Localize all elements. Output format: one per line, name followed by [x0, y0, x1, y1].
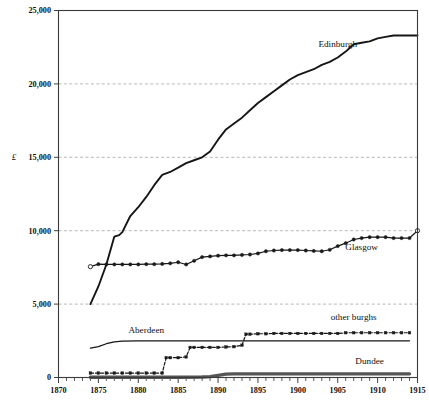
marker-glasgow-31 [336, 244, 339, 247]
marker-other-burghs-17 [209, 346, 212, 349]
marker-glasgow-17 [224, 254, 227, 257]
marker-other-burghs-6 [137, 372, 140, 375]
x-tick-label-1905: 1905 [330, 386, 346, 395]
chart-background [0, 0, 429, 411]
marker-glasgow-27 [304, 249, 307, 252]
annotation-other-burghs: other burghs [331, 312, 377, 322]
marker-other-burghs-27 [281, 332, 284, 335]
marker-glasgow-9 [161, 262, 164, 265]
marker-glasgow-8 [153, 263, 156, 266]
marker-glasgow-24 [280, 248, 283, 251]
marker-glasgow-14 [200, 255, 203, 258]
x-tick-label-1880: 1880 [130, 386, 146, 395]
marker-glasgow-21 [256, 252, 259, 255]
marker-glasgow-30 [328, 248, 331, 251]
marker-glasgow-26 [296, 248, 299, 251]
x-tick-label-1910: 1910 [369, 386, 385, 395]
figure-container: 05,00010,00015,00020,00025,000 187018751… [0, 0, 429, 411]
marker-other-burghs-21 [241, 344, 244, 347]
marker-glasgow-15 [208, 255, 211, 258]
marker-other-burghs-23 [249, 333, 252, 336]
marker-other-burghs-4 [121, 372, 124, 375]
marker-other-burghs-18 [217, 346, 220, 349]
marker-other-burghs-36 [352, 331, 355, 334]
marker-other-burghs-1 [97, 372, 100, 375]
marker-other-burghs-40 [384, 331, 387, 334]
y-axis-unit-label: £ [12, 152, 17, 162]
y-tick-label-0: 0 [47, 373, 51, 382]
marker-other-burghs-28 [289, 332, 292, 335]
marker-other-burghs-41 [392, 331, 395, 334]
marker-glasgow-1 [97, 263, 100, 266]
x-tick-label-1900: 1900 [290, 386, 306, 395]
marker-other-burghs-31 [312, 332, 315, 335]
marker-glasgow-2 [105, 263, 108, 266]
marker-glasgow-34 [360, 236, 363, 239]
marker-other-burghs-16 [201, 346, 204, 349]
marker-other-burghs-0 [89, 372, 92, 375]
marker-glasgow-33 [352, 238, 355, 241]
marker-other-burghs-20 [233, 345, 236, 348]
x-tick-label-1890: 1890 [210, 386, 226, 395]
marker-other-burghs-11 [169, 356, 172, 359]
annotation-edinburgh: Edinburgh [318, 39, 357, 49]
marker-other-burghs-9 [161, 372, 164, 375]
marker-other-burghs-14 [189, 346, 192, 349]
marker-glasgow-38 [392, 236, 395, 239]
marker-glasgow-35 [368, 236, 371, 239]
marker-glasgow-39 [400, 236, 403, 239]
marker-glasgow-7 [145, 263, 148, 266]
marker-glasgow-40 [408, 236, 411, 239]
marker-other-burghs-30 [305, 332, 308, 335]
marker-glasgow-16 [216, 254, 219, 257]
marker-other-burghs-35 [344, 331, 347, 334]
marker-other-burghs-22 [245, 333, 248, 336]
marker-glasgow-18 [232, 254, 235, 257]
annotation-dundee: Dundee [355, 356, 384, 366]
marker-glasgow-20 [248, 253, 251, 256]
marker-other-burghs-43 [408, 331, 411, 334]
y-tick-label-15000: 15,000 [28, 153, 51, 162]
marker-other-burghs-13 [185, 356, 188, 359]
marker-other-burghs-3 [113, 372, 116, 375]
marker-other-burghs-33 [328, 332, 331, 335]
x-tick-label-1870: 1870 [50, 386, 66, 395]
x-tick-label-1895: 1895 [250, 386, 266, 395]
y-tick-label-5000: 5,000 [33, 300, 51, 309]
marker-other-burghs-29 [297, 332, 300, 335]
marker-other-burghs-12 [177, 356, 180, 359]
marker-glasgow-36 [376, 236, 379, 239]
marker-glasgow-3 [113, 263, 116, 266]
marker-glasgow-19 [240, 253, 243, 256]
marker-other-burghs-2 [105, 372, 108, 375]
marker-other-burghs-19 [225, 346, 228, 349]
y-tick-label-20000: 20,000 [28, 80, 51, 89]
marker-other-burghs-39 [376, 331, 379, 334]
line-chart: 05,00010,00015,00020,00025,000 187018751… [0, 0, 429, 411]
marker-glasgow-13 [192, 259, 195, 262]
x-tick-label-1915: 1915 [409, 386, 425, 395]
marker-other-burghs-32 [320, 332, 323, 335]
annotation-aberdeen: Aberdeen [128, 325, 164, 335]
marker-other-burghs-10 [165, 356, 168, 359]
marker-glasgow-22 [264, 250, 267, 253]
marker-other-burghs-5 [129, 372, 132, 375]
y-tick-label-10000: 10,000 [28, 227, 51, 236]
marker-glasgow-11 [177, 261, 180, 264]
marker-glasgow-10 [169, 262, 172, 265]
marker-glasgow-5 [129, 263, 132, 266]
marker-glasgow-0 [88, 265, 92, 269]
marker-other-burghs-24 [257, 332, 260, 335]
marker-glasgow-12 [184, 263, 187, 266]
marker-other-burghs-37 [360, 331, 363, 334]
marker-other-burghs-15 [193, 346, 196, 349]
annotation-glasgow: Glasgow [345, 242, 378, 252]
x-tick-label-1885: 1885 [170, 386, 186, 395]
marker-glasgow-6 [137, 263, 140, 266]
marker-glasgow-29 [320, 250, 323, 253]
marker-other-burghs-34 [336, 332, 339, 335]
marker-glasgow-25 [288, 248, 291, 251]
marker-other-burghs-38 [368, 331, 371, 334]
marker-glasgow-4 [121, 263, 124, 266]
marker-other-burghs-42 [400, 331, 403, 334]
